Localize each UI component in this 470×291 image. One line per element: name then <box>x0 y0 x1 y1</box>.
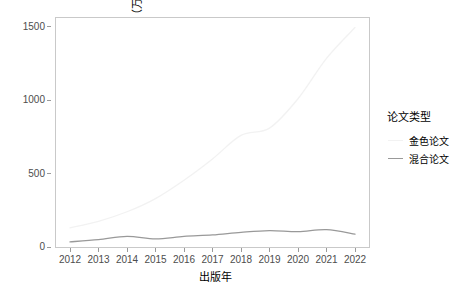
legend-item-label: 金色论文 <box>409 133 449 148</box>
legend-item-1[interactable]: 金色论文 <box>387 132 467 149</box>
x-tick-mark <box>155 248 156 252</box>
series-layer <box>56 18 369 247</box>
x-tick-mark <box>70 248 71 252</box>
legend-item-2[interactable]: 混合论文 <box>387 150 467 167</box>
x-tick-label: 2022 <box>339 254 371 265</box>
x-tick-mark <box>241 248 242 252</box>
x-tick-label: 2019 <box>254 254 286 265</box>
legend-key-stroke <box>388 140 403 141</box>
x-tick-mark <box>355 248 356 252</box>
x-tick-label: 2018 <box>225 254 257 265</box>
y-tick-mark <box>47 173 51 174</box>
x-tick-mark <box>212 248 213 252</box>
x-tick-label: 2017 <box>197 254 229 265</box>
x-tick-mark <box>184 248 185 252</box>
y-tick-label: 1500 <box>23 21 45 32</box>
x-tick-mark <box>98 248 99 252</box>
y-tick-label: 500 <box>28 168 45 179</box>
legend-items: 金色论文混合论文 <box>387 132 467 167</box>
plot-panel <box>55 17 370 248</box>
x-tick-mark <box>269 248 270 252</box>
y-axis-title-container: APC费用（万元） <box>2 0 22 20</box>
x-tick-label: 2012 <box>54 254 86 265</box>
x-tick-label: 2021 <box>311 254 343 265</box>
x-tick-label: 2016 <box>168 254 200 265</box>
series-line-2 <box>70 230 355 242</box>
y-tick-mark <box>47 26 51 27</box>
series-line-1 <box>70 28 355 228</box>
x-tick-label: 2013 <box>83 254 115 265</box>
legend-title: 论文类型 <box>387 108 467 124</box>
y-tick-mark <box>47 100 51 101</box>
legend-key-line-icon <box>387 132 404 149</box>
legend-key-line-icon <box>387 150 404 167</box>
x-tick-label: 2015 <box>140 254 172 265</box>
x-tick-label: 2014 <box>111 254 143 265</box>
x-tick-label: 2020 <box>282 254 314 265</box>
x-tick-mark <box>127 248 128 252</box>
legend: 论文类型 金色论文混合论文 <box>387 108 467 168</box>
legend-key-stroke <box>388 158 403 159</box>
x-tick-mark <box>298 248 299 252</box>
y-tick-mark <box>47 247 51 248</box>
line-chart: APC费用（万元） 050010001500 20122013201420152… <box>0 0 470 291</box>
y-tick-label: 0 <box>39 241 45 252</box>
x-axis-title: 出版年 <box>55 268 375 284</box>
legend-item-label: 混合论文 <box>409 151 449 166</box>
x-tick-mark <box>326 248 327 252</box>
y-tick-label: 1000 <box>23 94 45 105</box>
